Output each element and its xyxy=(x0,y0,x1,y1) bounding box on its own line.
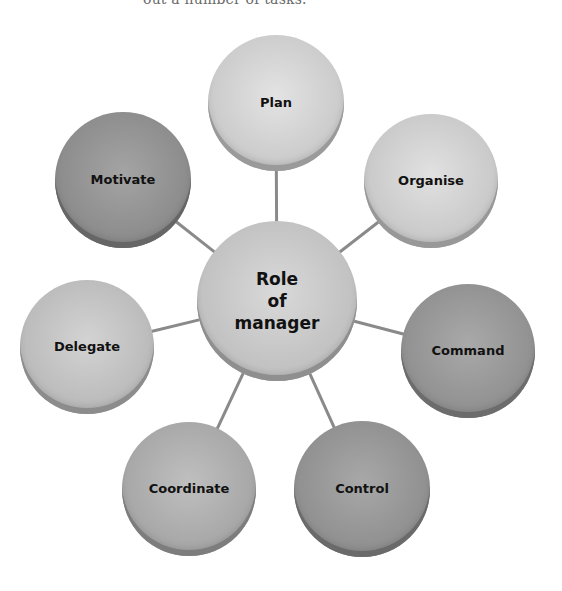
connector-line xyxy=(217,372,244,430)
node-label: Plan xyxy=(260,96,292,111)
node-label: Control xyxy=(335,482,389,497)
node-label: Motivate xyxy=(91,173,156,188)
node-label: Command xyxy=(432,344,505,359)
node-role-of-manager: Role of manager xyxy=(197,221,357,381)
node-label: Role of manager xyxy=(235,268,320,334)
node-plan: Plan xyxy=(208,35,344,171)
connector-line xyxy=(150,319,201,331)
node-command: Command xyxy=(401,284,535,418)
node-coordinate: Coordinate xyxy=(122,422,256,556)
node-label: Organise xyxy=(398,174,464,189)
connector-line xyxy=(309,372,335,429)
node-label: Coordinate xyxy=(149,482,230,497)
connector-line xyxy=(339,221,380,253)
node-label: Delegate xyxy=(54,340,120,355)
node-motivate: Motivate xyxy=(55,112,191,248)
node-delegate: Delegate xyxy=(20,280,154,414)
node-control: Control xyxy=(294,421,430,557)
node-organise: Organise xyxy=(364,114,498,248)
connector-line xyxy=(352,321,405,335)
connector-line xyxy=(175,221,216,253)
